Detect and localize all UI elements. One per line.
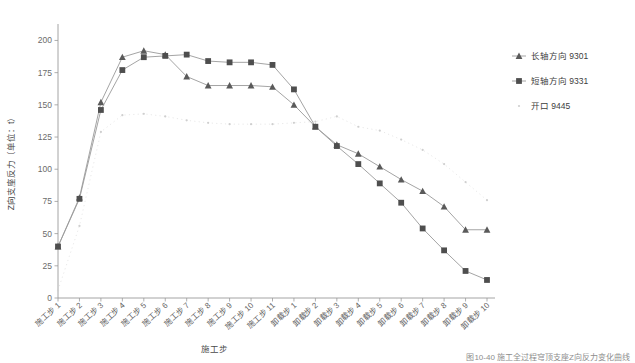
data-point-marker	[100, 131, 102, 133]
data-point-marker	[518, 105, 520, 107]
y-tick-label: 50	[43, 229, 53, 239]
data-point-marker	[270, 62, 276, 68]
y-tick-label: 200	[38, 35, 52, 45]
data-point-marker	[334, 143, 340, 149]
data-point-marker	[140, 47, 147, 53]
y-tick-label: 150	[38, 100, 52, 110]
chart-legend: 长轴方向 9301短轴方向 9331开口 9445	[512, 51, 589, 111]
series-3	[57, 113, 488, 292]
y-axis-title-text: Z向支座反力（单位：t）	[6, 113, 16, 211]
data-point-marker	[227, 59, 233, 65]
data-point-marker	[250, 123, 252, 125]
data-point-marker	[357, 126, 359, 128]
data-point-marker	[162, 53, 168, 59]
data-point-marker	[398, 200, 404, 206]
y-tick-label: 175	[38, 68, 52, 78]
data-point-marker	[376, 163, 383, 169]
data-point-marker	[248, 59, 254, 65]
data-point-marker	[77, 196, 83, 202]
data-point-marker	[377, 180, 383, 186]
data-point-marker	[291, 86, 297, 92]
data-point-marker	[313, 124, 319, 130]
data-point-marker	[400, 139, 402, 141]
data-point-marker	[336, 115, 338, 117]
data-point-marker	[419, 188, 426, 194]
data-point-marker	[486, 199, 488, 201]
data-point-marker	[441, 203, 448, 209]
series-line	[58, 114, 487, 290]
y-tick-label: 75	[43, 196, 53, 206]
data-point-marker	[463, 268, 469, 274]
data-point-marker	[98, 107, 104, 113]
y-tick-label: 25	[43, 261, 53, 271]
data-point-marker	[441, 247, 447, 253]
y-axis-ticks: 0255075100125150175200	[38, 35, 58, 303]
data-point-marker	[184, 52, 190, 58]
data-point-marker	[205, 58, 211, 64]
figure-caption-text: 图10-40 施工全过程穹顶支座Z向反力变化曲线	[466, 352, 630, 362]
data-point-marker	[229, 123, 231, 125]
data-point-marker	[78, 225, 80, 227]
data-point-marker	[55, 244, 61, 250]
legend-label-1: 长轴方向 9301	[531, 51, 589, 61]
data-point-marker	[484, 277, 490, 283]
chart-canvas: 0255075100125150175200Z向支座反力（单位：t）施工步 1施…	[0, 0, 635, 363]
data-point-marker	[422, 149, 424, 151]
legend-label-2: 短轴方向 9331	[531, 76, 589, 86]
data-point-marker	[207, 122, 209, 124]
data-point-marker	[164, 115, 166, 117]
data-point-marker	[516, 78, 522, 84]
y-tick-label: 0	[47, 293, 52, 303]
x-axis-title: 施工步	[201, 344, 228, 354]
data-point-marker	[98, 99, 105, 105]
data-point-marker	[119, 67, 125, 73]
data-point-marker	[271, 123, 273, 125]
data-point-marker	[464, 181, 466, 183]
series-1	[55, 47, 491, 249]
y-tick-label: 125	[38, 132, 52, 142]
data-point-marker	[293, 122, 295, 124]
legend-label-3: 开口 9445	[531, 101, 571, 111]
data-point-marker	[379, 129, 381, 131]
data-point-marker	[355, 161, 361, 167]
x-axis-ticks: 施工步 1施工步 2施工步 3施工步 4施工步 5施工步 6施工步 7施工步 8…	[33, 298, 492, 331]
data-point-marker	[121, 114, 123, 116]
data-point-marker	[398, 176, 405, 182]
chart-axes	[58, 24, 495, 298]
data-point-marker	[443, 163, 445, 165]
y-tick-label: 100	[38, 164, 52, 174]
figure-chart-support-reaction: 0255075100125150175200Z向支座反力（单位：t）施工步 1施…	[0, 0, 635, 363]
figure-caption: 图10-40 施工全过程穹顶支座Z向反力变化曲线	[466, 352, 630, 362]
series-line	[58, 51, 487, 247]
data-point-marker	[143, 113, 145, 115]
data-point-marker	[420, 226, 426, 232]
data-point-marker	[141, 54, 147, 60]
data-point-marker	[186, 119, 188, 121]
support-reaction-line-chart: 0255075100125150175200Z向支座反力（单位：t）施工步 1施…	[0, 0, 635, 363]
data-point-marker	[355, 150, 362, 156]
data-point-marker	[57, 289, 59, 291]
y-axis-title: Z向支座反力（单位：t）	[6, 113, 16, 211]
x-axis-title-text: 施工步	[201, 344, 228, 354]
data-point-marker	[314, 120, 316, 122]
